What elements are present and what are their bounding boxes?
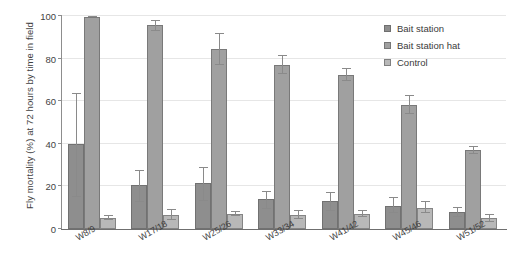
- error-bar: [457, 207, 458, 218]
- bar-group: [68, 16, 116, 229]
- error-bar: [171, 209, 172, 221]
- y-axis-title: Fly mortality (%) at 72 hours by time in…: [24, 1, 35, 231]
- bar-chart: Fly mortality (%) at 72 hours by time in…: [0, 0, 519, 268]
- error-bar-cap: [342, 68, 351, 69]
- bar: [211, 49, 227, 229]
- error-bar-cap: [421, 201, 430, 202]
- error-bar-cap: [485, 214, 494, 215]
- error-bar-cap: [453, 216, 462, 217]
- legend-item-label: Bait station: [397, 23, 444, 34]
- error-bar-cap: [294, 210, 303, 211]
- error-bar-cap: [135, 170, 144, 171]
- legend-swatch-bait-station-hat: [384, 42, 391, 49]
- error-bar: [139, 170, 140, 202]
- legend-swatch-bait-station: [384, 25, 391, 32]
- error-bar-cap: [167, 219, 176, 220]
- error-bar-cap: [88, 16, 97, 17]
- error-bar-cap: [469, 146, 478, 147]
- error-bar-cap: [231, 211, 240, 212]
- error-bar-cap: [104, 215, 113, 216]
- error-bar-cap: [104, 219, 113, 220]
- error-bar-cap: [294, 218, 303, 219]
- error-bar-cap: [469, 153, 478, 154]
- bar-group: [195, 16, 243, 229]
- y-tick-mark: [58, 185, 62, 186]
- bar: [401, 105, 417, 229]
- error-bar: [282, 55, 283, 73]
- error-bar: [155, 20, 156, 31]
- error-bar-cap: [151, 30, 160, 31]
- y-tick-mark: [58, 15, 62, 16]
- y-tick-label: 80: [45, 53, 56, 64]
- error-bar-cap: [151, 20, 160, 21]
- error-bar-cap: [326, 210, 335, 211]
- error-bar-cap: [389, 212, 398, 213]
- bar: [147, 25, 163, 229]
- error-bar-cap: [215, 33, 224, 34]
- legend-swatch-control: [384, 59, 391, 66]
- error-bar: [298, 210, 299, 220]
- error-bar: [330, 192, 331, 211]
- error-bar: [409, 95, 410, 114]
- error-bar-cap: [342, 80, 351, 81]
- error-bar-cap: [262, 208, 271, 209]
- error-bar-cap: [453, 207, 462, 208]
- error-bar: [108, 215, 109, 220]
- y-tick-label: 100: [40, 11, 56, 22]
- legend-item: Bait station hat: [384, 37, 460, 54]
- legend-item-label: Control: [397, 57, 428, 68]
- bar-group: [322, 16, 370, 229]
- legend-item: Bait station: [384, 20, 460, 37]
- bar-group: [131, 16, 179, 229]
- y-tick-mark: [58, 58, 62, 59]
- error-bar-cap: [199, 167, 208, 168]
- error-bar-cap: [358, 210, 367, 211]
- error-bar-cap: [278, 55, 287, 56]
- error-bar-cap: [421, 212, 430, 213]
- y-tick-label: 60: [45, 96, 56, 107]
- error-bar-cap: [358, 216, 367, 217]
- y-tick-label: 40: [45, 138, 56, 149]
- legend: Bait stationBait station hatControl: [384, 20, 460, 71]
- y-tick-mark: [58, 228, 62, 229]
- error-bar: [362, 210, 363, 217]
- y-tick-mark: [58, 100, 62, 101]
- error-bar-cap: [167, 209, 176, 210]
- error-bar: [346, 68, 347, 81]
- error-bar-cap: [199, 200, 208, 201]
- error-bar: [266, 191, 267, 209]
- bar: [274, 65, 290, 229]
- error-bar: [76, 93, 77, 197]
- error-bar-cap: [72, 93, 81, 94]
- error-bar-cap: [72, 196, 81, 197]
- error-bar-cap: [405, 95, 414, 96]
- error-bar: [203, 167, 204, 201]
- y-tick-label: 0: [51, 224, 56, 235]
- error-bar: [235, 211, 236, 216]
- error-bar-cap: [405, 113, 414, 114]
- error-bar: [425, 201, 426, 213]
- error-bar-cap: [262, 191, 271, 192]
- error-bar-cap: [215, 64, 224, 65]
- bar: [84, 17, 100, 229]
- bar-group: [258, 16, 306, 229]
- error-bar: [393, 197, 394, 213]
- y-tick-label: 20: [45, 181, 56, 192]
- error-bar-cap: [389, 197, 398, 198]
- error-bar-cap: [485, 221, 494, 222]
- error-bar: [473, 146, 474, 155]
- legend-item-label: Bait station hat: [397, 40, 460, 51]
- error-bar: [219, 33, 220, 65]
- bar: [338, 75, 354, 229]
- error-bar: [92, 16, 93, 17]
- error-bar-cap: [326, 192, 335, 193]
- error-bar-cap: [231, 215, 240, 216]
- error-bar-cap: [278, 73, 287, 74]
- y-tick-mark: [58, 143, 62, 144]
- y-axis-line: [61, 16, 62, 229]
- error-bar: [489, 214, 490, 221]
- legend-item: Control: [384, 54, 460, 71]
- bar: [465, 150, 481, 229]
- error-bar-cap: [135, 201, 144, 202]
